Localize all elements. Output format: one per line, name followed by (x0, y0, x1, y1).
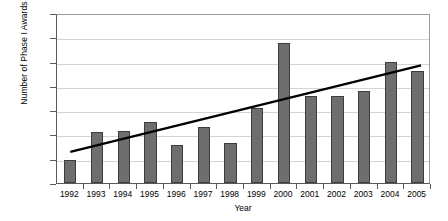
x-axis-tick-mark (190, 184, 191, 189)
x-axis-tick-mark (430, 184, 431, 189)
x-axis-tick-mark (136, 184, 137, 189)
x-axis-tick-mark (163, 184, 164, 189)
trendline (57, 15, 429, 183)
x-axis-tick-mark (216, 184, 217, 189)
x-axis-tick-mark (296, 184, 297, 189)
x-axis-tick-mark (403, 184, 404, 189)
trendline-segment (70, 65, 421, 151)
y-axis-tick-mark (50, 184, 56, 185)
x-axis-tick-mark (323, 184, 324, 189)
y-axis-title: Number of Phase I Awards (19, 0, 29, 133)
x-axis-tick-mark (350, 184, 351, 189)
plot-area (56, 14, 430, 184)
x-axis-tick-mark (243, 184, 244, 189)
x-axis-tick-mark (83, 184, 84, 189)
bar-chart: Number of Phase I Awards 010020030040050… (0, 0, 448, 221)
x-axis-tick-label: 2005 (397, 190, 437, 199)
x-axis-tick-mark (377, 184, 378, 189)
x-axis-tick-mark (270, 184, 271, 189)
x-axis-title: Year (56, 203, 430, 213)
x-axis-tick-mark (109, 184, 110, 189)
